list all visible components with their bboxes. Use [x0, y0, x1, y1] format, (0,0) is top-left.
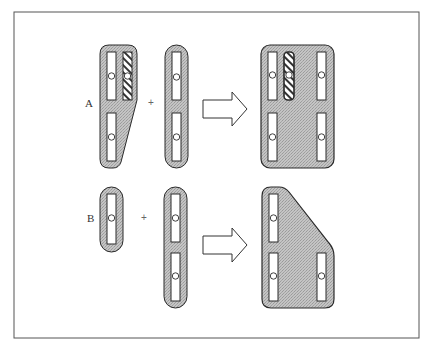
pin-hole [108, 215, 114, 221]
pin-hole [270, 215, 276, 221]
pin-hole [318, 273, 324, 279]
pin-hole [286, 72, 292, 78]
pin-hole [318, 72, 324, 78]
pin-hole [173, 134, 179, 140]
assembly-diagram [0, 0, 429, 349]
pin-hole [124, 73, 130, 79]
part-a2-long-bar [165, 45, 188, 168]
pin-hole [270, 273, 276, 279]
pin-hole [269, 72, 275, 78]
result-a-combined-plate [261, 45, 334, 168]
arrow-right-icon [203, 228, 247, 262]
pin-hole [108, 73, 114, 79]
pin-hole [269, 134, 275, 140]
arrow-right-icon [203, 92, 247, 126]
pin-hole [108, 134, 114, 140]
part-b2-long-bar [164, 187, 187, 308]
result-b-chamfered-plate [262, 187, 334, 308]
pin-hole [173, 74, 179, 80]
row-label-a: A [85, 98, 93, 109]
pin-hole [318, 134, 324, 140]
part-a1-tapered-plate [100, 45, 137, 168]
plus-operator-b: + [141, 213, 147, 223]
part-b1-short-bar [100, 187, 123, 252]
row-label-b: B [87, 213, 94, 224]
figure-frame [14, 12, 419, 338]
plus-operator-a: + [148, 98, 154, 108]
pin-hole [172, 273, 178, 279]
pin-hole [172, 215, 178, 221]
